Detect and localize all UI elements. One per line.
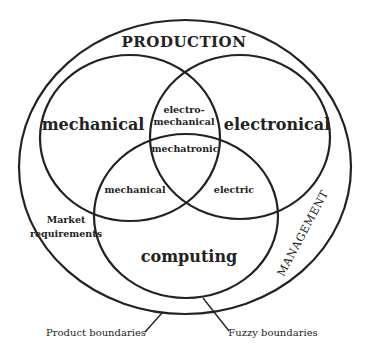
mechanical-computing-label: mechanical xyxy=(104,184,165,195)
mechanical-label: mechanical xyxy=(42,115,145,134)
venn-diagram: PRODUCTION mechanical electronical compu… xyxy=(0,0,366,353)
fuzzy-boundaries-label: Fuzzy boundaries xyxy=(228,327,317,338)
computing-label: computing xyxy=(141,247,237,266)
product-boundaries-leader xyxy=(145,313,162,332)
market-label-line2: requirements xyxy=(30,228,102,239)
market-label-line1: Market xyxy=(47,214,86,225)
electro-mechanical-label-line1: electro- xyxy=(163,104,204,115)
management-label: MANAGEMENT xyxy=(275,188,332,279)
mechatronic-label: mechatronic xyxy=(152,143,219,154)
product-boundaries-label: Product boundaries xyxy=(46,327,146,338)
mechanical-circle xyxy=(40,55,220,221)
electro-mechanical-label-line2: mechanical xyxy=(153,116,214,127)
production-label: PRODUCTION xyxy=(122,33,247,51)
electronical-label: electronical xyxy=(224,115,331,134)
production-boundary xyxy=(19,20,351,314)
computing-circle xyxy=(94,134,278,298)
fuzzy-boundaries-leader xyxy=(203,298,229,331)
electric-label: electric xyxy=(214,184,254,195)
